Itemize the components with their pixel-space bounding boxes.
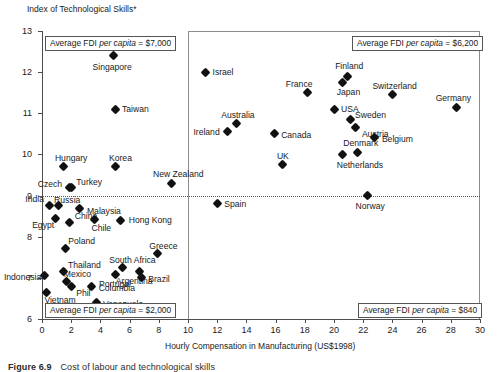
y-tick-label: 12 <box>22 67 32 77</box>
data-point-label: South Africa <box>109 256 155 265</box>
data-point-label: UK <box>277 152 289 161</box>
plot-frame-top <box>188 31 480 32</box>
x-tick <box>188 319 189 323</box>
data-point-label: Israel <box>213 68 234 77</box>
data-point-label: Mexico <box>64 270 91 279</box>
data-point[interactable] <box>222 127 232 137</box>
annot-text-pre: Average FDI <box>363 305 412 315</box>
data-point-label: Ireland <box>193 128 219 137</box>
data-point-label: Brazil <box>148 275 170 284</box>
data-point[interactable] <box>278 160 288 170</box>
y-tick-label: 11 <box>23 108 32 118</box>
y-axis-title: Index of Technological Skills* <box>27 4 136 14</box>
y-tick-label: 10 <box>22 149 32 159</box>
data-point[interactable] <box>110 104 120 114</box>
y-tick: 11 <box>38 113 42 114</box>
data-point[interactable] <box>363 191 373 201</box>
y-tick: 8 <box>38 237 42 238</box>
data-point-label: Japan <box>337 88 360 97</box>
x-tick <box>363 319 364 323</box>
data-point-label: Singapore <box>93 63 132 72</box>
figure-caption: Figure 6.9Cost of labour and technologic… <box>8 362 215 372</box>
data-point[interactable] <box>65 217 75 227</box>
data-point-label: Greece <box>149 242 177 251</box>
data-point-label: Phil <box>76 289 90 298</box>
data-point[interactable] <box>269 129 279 139</box>
data-point[interactable] <box>59 162 69 172</box>
data-point-label: France <box>286 80 313 89</box>
annot-text-italic: per capita <box>412 305 449 315</box>
data-point[interactable] <box>452 102 462 112</box>
data-point-label: Canada <box>281 131 311 140</box>
data-point[interactable] <box>66 282 76 292</box>
x-tick <box>334 319 335 323</box>
data-point[interactable] <box>303 88 313 98</box>
data-point-label: Columbia <box>99 284 135 293</box>
x-tick <box>276 319 277 323</box>
data-point[interactable] <box>329 104 339 114</box>
annot-text-post: = $6,200 <box>443 38 478 48</box>
y-tick-label: 8 <box>27 232 32 242</box>
x-tick-label: 8 <box>156 325 161 335</box>
data-point-label: Finland <box>335 62 363 71</box>
x-tick <box>422 319 423 323</box>
data-point-label: Netherlands <box>337 161 383 170</box>
data-point[interactable] <box>44 201 54 211</box>
data-point-label: Taiwan <box>122 105 149 114</box>
scatter-plot-area: 678910111213 024681012141618202224262830… <box>42 31 480 319</box>
data-point-label: New Zealand <box>153 170 204 179</box>
data-point-label: Czech <box>38 180 62 189</box>
data-point-label: Switzerland <box>372 82 416 91</box>
x-tick <box>217 319 218 323</box>
data-point-label: Hong Kong <box>129 216 172 225</box>
x-tick-label: 4 <box>98 325 103 335</box>
data-point[interactable] <box>167 178 177 188</box>
annotation-top-left: Average FDI per capita = $7,000 <box>45 36 176 51</box>
annot-text-post: = $2,000 <box>136 305 171 315</box>
x-tick <box>100 319 101 323</box>
data-point-label: Germany <box>436 94 471 103</box>
x-tick-label: 16 <box>271 325 281 335</box>
x-tick <box>305 319 306 323</box>
x-tick <box>480 319 481 323</box>
annot-text-post: = $7,000 <box>136 38 171 48</box>
annot-text-pre: Average FDI <box>50 38 99 48</box>
data-point[interactable] <box>351 123 361 133</box>
x-tick <box>42 319 43 323</box>
data-point[interactable] <box>201 67 211 77</box>
figure-root: Index of Technological Skills* 678910111… <box>0 0 497 372</box>
x-tick-label: 14 <box>241 325 251 335</box>
annot-text-italic: per capita <box>406 38 443 48</box>
data-point[interactable] <box>109 51 119 61</box>
data-point[interactable] <box>338 149 348 159</box>
x-axis-line <box>42 319 480 320</box>
x-tick-label: 6 <box>127 325 132 335</box>
data-point[interactable] <box>116 215 126 225</box>
x-tick-label: 26 <box>417 325 427 335</box>
data-point[interactable] <box>110 162 120 172</box>
x-tick-label: 24 <box>387 325 397 335</box>
y-tick: 10 <box>38 154 42 155</box>
data-point-label: Sweden <box>355 111 386 120</box>
annotation-bottom-left: Average FDI per capita = $2,000 <box>45 303 176 318</box>
data-point[interactable] <box>387 90 397 100</box>
x-tick-label: 30 <box>475 325 485 335</box>
data-point-label: Spain <box>224 200 246 209</box>
horizontal-divider-line <box>42 196 480 197</box>
figure-caption-number: Figure 6.9 <box>8 362 52 372</box>
data-point-label: Russia <box>54 196 80 205</box>
x-tick-label: 18 <box>300 325 310 335</box>
x-tick-label: 0 <box>39 325 44 335</box>
data-point-label: Poland <box>68 237 95 246</box>
data-point-label: Thailand <box>68 261 101 270</box>
data-point-label: Hungary <box>55 154 87 163</box>
annot-text-italic: per capita <box>99 305 136 315</box>
x-tick-label: 22 <box>358 325 368 335</box>
x-tick <box>246 319 247 323</box>
x-tick <box>130 319 131 323</box>
data-point[interactable] <box>352 147 362 157</box>
data-point[interactable] <box>212 199 222 209</box>
data-point[interactable] <box>231 119 241 129</box>
data-point-label: Chile <box>92 224 112 233</box>
plot-frame-right <box>479 31 480 319</box>
